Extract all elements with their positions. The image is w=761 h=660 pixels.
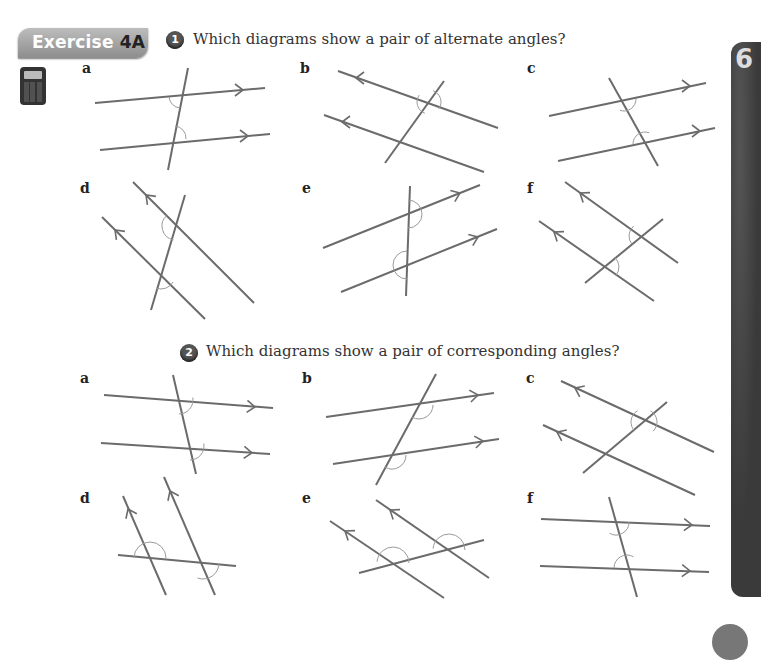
line — [95, 88, 265, 103]
chapter-tab: 6 — [731, 42, 761, 597]
line — [609, 78, 658, 166]
line — [333, 439, 499, 464]
line — [341, 229, 497, 292]
diagram-q1-e — [323, 185, 497, 296]
parallel-arrow-icon — [682, 80, 690, 92]
angle-arc — [614, 257, 619, 275]
angle-arc — [393, 251, 407, 279]
line — [330, 521, 444, 598]
diagram-q2-d — [118, 477, 236, 595]
diagram-q1-a — [95, 68, 270, 170]
line — [376, 374, 436, 485]
line — [406, 186, 410, 296]
line — [168, 68, 188, 170]
line — [326, 393, 494, 417]
line — [385, 81, 444, 163]
diagram-q2-b — [326, 374, 499, 485]
angle-arc — [198, 563, 219, 579]
line — [100, 134, 270, 150]
chapter-number: 6 — [735, 44, 753, 74]
diagram-q1-b — [324, 71, 498, 172]
angle-arc — [169, 97, 180, 108]
angle-arc — [134, 542, 166, 558]
diagram-q1-d — [102, 182, 254, 319]
line — [558, 128, 715, 161]
line — [338, 71, 498, 128]
diagram-q2-e — [330, 500, 489, 598]
line — [543, 425, 695, 495]
line — [585, 219, 663, 283]
line — [133, 182, 254, 303]
line — [173, 375, 196, 474]
line — [609, 497, 637, 597]
line — [376, 500, 489, 578]
line — [323, 185, 480, 248]
diagram-q1-f — [539, 182, 678, 301]
angle-arc — [651, 411, 658, 431]
diagram-q2-c — [543, 381, 714, 495]
line — [118, 555, 236, 566]
line — [561, 381, 714, 452]
diagram-q1-c — [549, 78, 715, 166]
angle-arc — [614, 555, 634, 568]
line — [164, 477, 215, 595]
line — [324, 115, 484, 172]
diagram-q2-f — [540, 497, 710, 597]
page-number-badge — [712, 624, 748, 660]
line — [101, 443, 270, 454]
line — [359, 540, 484, 573]
diagram-q2-a — [101, 375, 273, 474]
